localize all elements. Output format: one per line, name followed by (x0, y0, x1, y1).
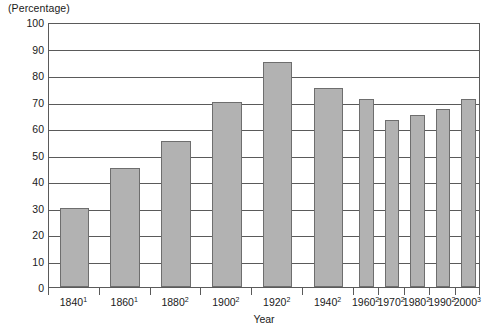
x-axis-tick (200, 288, 201, 295)
x-axis-tick (479, 288, 480, 295)
x-axis-tick-label: 20003 (454, 296, 481, 309)
bars-series (49, 24, 479, 287)
bar (110, 168, 139, 287)
y-axis-tick-label: 90 (4, 44, 44, 55)
x-axis-title: Year (48, 313, 480, 325)
x-axis-tick (455, 288, 456, 295)
y-axis-tick-label: 0 (4, 283, 44, 294)
x-axis-tick-label: 18401 (60, 296, 87, 309)
x-axis-tick (251, 288, 252, 295)
y-axis-tick-label: 10 (4, 256, 44, 267)
x-axis-ticks (48, 288, 480, 295)
y-axis-tick-label: 80 (4, 71, 44, 82)
x-axis-tick-label: 19602 (352, 296, 379, 309)
x-axis-tick-label: 19802 (403, 296, 430, 309)
x-axis-tick (353, 288, 354, 295)
x-axis-tick (150, 288, 151, 295)
y-axis-tick-label: 20 (4, 230, 44, 241)
x-axis-tick-label: 19202 (263, 296, 290, 309)
bar (461, 99, 476, 287)
x-axis-tick-label: 18601 (111, 296, 138, 309)
x-axis-tick-label: 19002 (212, 296, 239, 309)
bar-chart-figure: (Percentage) 1009080706050403020100 1840… (0, 0, 493, 333)
bar (385, 120, 400, 287)
bar (314, 88, 343, 287)
y-axis-tick-label: 50 (4, 150, 44, 161)
y-axis-tick-label: 100 (4, 18, 44, 29)
bar (436, 109, 451, 287)
y-axis-tick-label: 60 (4, 124, 44, 135)
x-axis-tick-labels: 1840118601188021900219202194021960219702… (48, 296, 480, 312)
x-axis-tick (378, 288, 379, 295)
x-axis-tick (429, 288, 430, 295)
x-axis-tick-label: 18802 (161, 296, 188, 309)
y-axis-tick-label: 30 (4, 203, 44, 214)
y-axis-tick-labels: 1009080706050403020100 (0, 23, 44, 288)
x-axis-tick (404, 288, 405, 295)
bar (60, 208, 89, 288)
bar (263, 62, 292, 287)
x-axis-tick-label: 19402 (314, 296, 341, 309)
y-axis-unit-caption: (Percentage) (8, 2, 70, 14)
x-axis-tick-label: 19702 (377, 296, 404, 309)
bar (212, 102, 241, 288)
bar (161, 141, 190, 287)
y-axis-tick-label: 70 (4, 97, 44, 108)
plot-area (48, 23, 480, 288)
x-axis-tick (99, 288, 100, 295)
bar (410, 115, 425, 287)
x-axis-tick (48, 288, 49, 295)
x-axis-tick (302, 288, 303, 295)
bar (359, 99, 374, 287)
x-axis-tick-label: 19902 (428, 296, 455, 309)
y-axis-tick-label: 40 (4, 177, 44, 188)
